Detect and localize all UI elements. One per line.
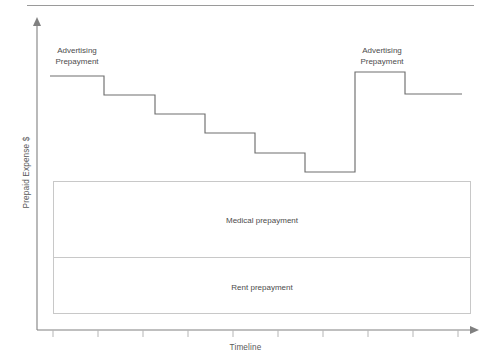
annotation-left-line-2: Prepayment	[40, 57, 114, 68]
x-axis-label: Timeline	[0, 343, 491, 352]
annotation-right-line-2: Prepayment	[345, 57, 419, 68]
band-label-medical-prepayment: Medical prepayment	[53, 216, 471, 225]
annotation-left-line-1: Advertising	[40, 46, 114, 57]
annotation-advertising-prepayment-right: Advertising Prepayment	[345, 46, 419, 67]
y-axis-arrowhead	[33, 17, 41, 26]
band-label-rent-prepayment: Rent prepayment	[53, 283, 471, 292]
annotation-advertising-prepayment-left: Advertising Prepayment	[40, 46, 114, 67]
y-axis-label: Prepaid Expense $	[22, 118, 31, 228]
annotation-right-line-1: Advertising	[345, 46, 419, 57]
figure-canvas: Prepaid Expense $ Timeline Advertising P…	[0, 0, 491, 363]
x-axis-ticks	[53, 330, 458, 337]
x-axis-arrowhead	[470, 326, 479, 334]
advertising-prepayment-step-line	[50, 72, 462, 172]
